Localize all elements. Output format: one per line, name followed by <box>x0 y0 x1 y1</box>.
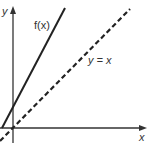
fx-label: f(x) <box>34 20 50 31</box>
identity-label: y = x <box>88 55 112 66</box>
y-axis-label: y <box>2 6 8 17</box>
x-axis-label: x <box>139 132 145 143</box>
graph-canvas <box>0 0 148 143</box>
y-axis-arrow-icon <box>10 6 16 14</box>
identity-line <box>0 9 130 141</box>
